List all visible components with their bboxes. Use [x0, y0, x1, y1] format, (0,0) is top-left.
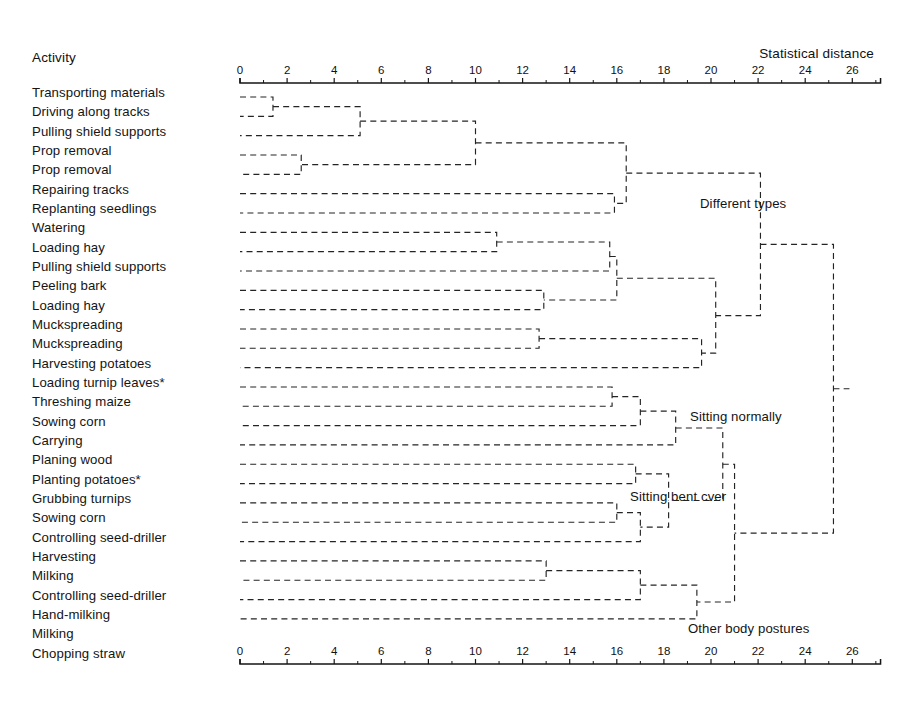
axis-tick-label: 10: [469, 645, 482, 657]
dendrogram-link: [240, 503, 617, 522]
dendrogram-link: [240, 561, 546, 580]
dendrogram-link: [240, 232, 497, 251]
axis-tick-label: 24: [799, 645, 812, 657]
dendrogram-link: [240, 464, 636, 483]
dendrogram-link: [240, 194, 614, 213]
dendrogram-link: [240, 513, 640, 542]
axis-top: 02468101214161820222426: [237, 64, 881, 83]
dendrogram-link: [669, 428, 723, 500]
dendrogram-link: [240, 397, 640, 426]
axis-tick-label: 22: [752, 64, 765, 76]
axis-tick-label: 12: [516, 64, 529, 76]
dendrogram-link: [301, 121, 475, 164]
axis-tick-label: 26: [846, 64, 859, 76]
dendrogram-link: [544, 256, 617, 299]
dendrogram-link: [476, 143, 627, 203]
dendrogram-link: [240, 242, 610, 271]
axis-tick-label: 18: [658, 64, 671, 76]
dendrogram-figure: Activity Statistical distance Transporti…: [0, 0, 912, 710]
axis-tick-label: 0: [237, 645, 243, 657]
axis-tick-label: 20: [705, 64, 718, 76]
axis-tick-label: 0: [237, 64, 243, 76]
axis-tick-label: 12: [516, 645, 529, 657]
dendrogram-link: [240, 585, 697, 619]
axis-tick-label: 16: [610, 645, 623, 657]
axis-tick-label: 20: [705, 645, 718, 657]
dendrogram-link: [626, 173, 760, 316]
axis-tick-label: 8: [425, 645, 431, 657]
axis-tick-label: 8: [425, 64, 431, 76]
axis-tick-label: 22: [752, 645, 765, 657]
dendrogram-link: [240, 339, 702, 368]
axis-tick-label: 4: [331, 645, 338, 657]
axis-tick-label: 14: [563, 64, 576, 76]
dendrogram-link: [735, 244, 834, 533]
axis-tick-label: 6: [378, 645, 384, 657]
dendrogram-link: [240, 107, 360, 136]
dendrogram-link: [240, 97, 273, 116]
axis-tick-label: 2: [284, 645, 290, 657]
dendrogram-link: [697, 464, 735, 602]
dendrogram-link: [240, 387, 612, 406]
axis-tick-label: 4: [331, 64, 338, 76]
dendrogram-canvas: 02468101214161820222426 0246810121416182…: [0, 0, 912, 710]
axis-tick-label: 16: [610, 64, 623, 76]
axis-tick-label: 26: [846, 645, 859, 657]
axis-tick-label: 14: [563, 645, 576, 657]
dendrogram-link: [240, 155, 301, 174]
dendrogram-link: [240, 290, 544, 309]
axis-tick-label: 18: [658, 645, 671, 657]
dendrogram-link: [636, 474, 669, 527]
axis-tick-label: 6: [378, 64, 384, 76]
axis-tick-label: 24: [799, 64, 812, 76]
dendrogram-link: [240, 329, 539, 348]
dendrogram-link: [240, 571, 640, 600]
axis-bottom: 02468101214161820222426: [237, 645, 881, 664]
axis-tick-label: 10: [469, 64, 482, 76]
dendrogram-link: [240, 411, 676, 445]
dendrogram-tree: [240, 97, 849, 619]
dendrogram-link: [617, 278, 716, 353]
axis-tick-label: 2: [284, 64, 290, 76]
